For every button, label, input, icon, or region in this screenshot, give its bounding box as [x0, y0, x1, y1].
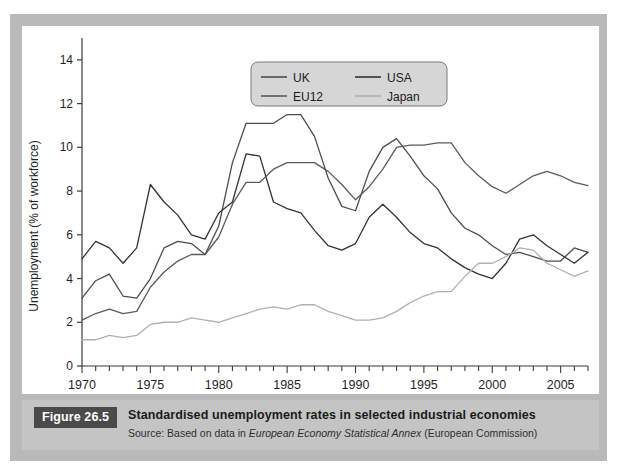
source-prefix: Source: Based on data in — [128, 427, 249, 439]
y-axis-title: Unemployment (% of workforce) — [27, 140, 41, 311]
unemployment-line-chart: 0246810121419701975198019851990199520002… — [22, 26, 599, 394]
chart-legend: UKUSAEU12Japan — [251, 62, 447, 106]
y-tick-label: 4 — [66, 272, 73, 286]
x-tick-label: 1975 — [136, 378, 164, 392]
y-tick-label: 10 — [60, 140, 74, 154]
figure-source: Source: Based on data in European Econom… — [128, 427, 537, 439]
x-tick-label: 1990 — [342, 378, 370, 392]
x-tick-label: 2000 — [478, 378, 506, 392]
y-tick-label: 14 — [60, 53, 74, 67]
y-tick-label: 0 — [66, 359, 73, 373]
source-publication: European Economy Statistical Annex — [249, 427, 421, 439]
x-tick-label: 1970 — [68, 378, 96, 392]
figure-caption-band: Figure 26.5 Standardised unemployment ra… — [22, 400, 599, 450]
figure-number-badge: Figure 26.5 — [34, 407, 117, 428]
x-tick-label: 2005 — [547, 378, 575, 392]
figure-container: 0246810121419701975198019851990199520002… — [0, 0, 617, 475]
y-tick-label: 12 — [60, 97, 74, 111]
legend-label-japan: Japan — [387, 90, 420, 104]
legend-label-uk: UK — [293, 71, 310, 85]
chart-panel: 0246810121419701975198019851990199520002… — [22, 26, 599, 394]
x-tick-label: 1980 — [205, 378, 233, 392]
x-tick-label: 1995 — [410, 378, 438, 392]
figure-title: Standardised unemployment rates in selec… — [128, 408, 536, 422]
x-tick-label: 1985 — [273, 378, 301, 392]
legend-label-usa: USA — [387, 71, 412, 85]
legend-label-eu12: EU12 — [293, 90, 323, 104]
source-suffix: (European Commission) — [421, 427, 537, 439]
y-tick-label: 8 — [66, 184, 73, 198]
y-tick-label: 6 — [66, 228, 73, 242]
y-tick-label: 2 — [66, 315, 73, 329]
